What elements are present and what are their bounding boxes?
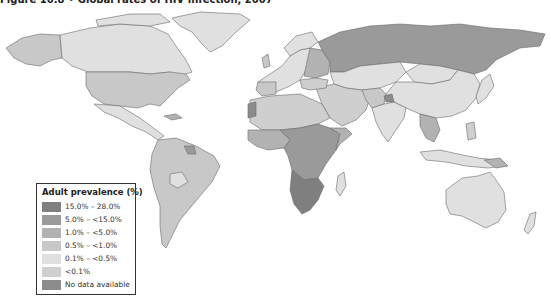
region-southeast-asia bbox=[420, 114, 440, 142]
region-alaska bbox=[6, 34, 62, 66]
legend-label: 0.5% – <1.0% bbox=[65, 241, 117, 250]
legend-swatch bbox=[42, 241, 61, 251]
legend-item-15-28: 15.0% – 28.0% bbox=[42, 200, 131, 213]
region-turkey bbox=[300, 78, 328, 90]
region-greenland bbox=[172, 12, 250, 52]
legend-item-5-15: 5.0% – <15.0% bbox=[42, 213, 131, 226]
region-india bbox=[372, 102, 406, 142]
region-east-central-africa bbox=[280, 124, 340, 180]
legend-item-0.1-0.5: 0.1% – <0.5% bbox=[42, 252, 131, 265]
legend-swatch bbox=[42, 228, 61, 238]
legend-item-under-0.1: <0.1% bbox=[42, 265, 131, 278]
region-mexico bbox=[94, 104, 164, 140]
legend-label: 0.1% – <0.5% bbox=[65, 254, 117, 263]
legend-label: 5.0% – <15.0% bbox=[65, 215, 122, 224]
region-south-america bbox=[150, 138, 220, 248]
region-iberia bbox=[256, 82, 276, 96]
legend-item-no-data: No data available bbox=[42, 278, 131, 291]
region-philippines bbox=[466, 122, 476, 140]
region-new-zealand bbox=[524, 212, 536, 234]
legend-label: 15.0% – 28.0% bbox=[65, 202, 120, 211]
legend-label: 1.0% – <5.0% bbox=[65, 228, 117, 237]
region-madagascar bbox=[336, 172, 346, 196]
legend-swatch bbox=[42, 254, 61, 264]
region-japan bbox=[476, 74, 494, 104]
region-western-sahara bbox=[248, 102, 256, 118]
legend-swatch bbox=[42, 215, 61, 225]
legend-item-0.5-1: 0.5% – <1.0% bbox=[42, 239, 131, 252]
region-canada bbox=[60, 24, 192, 76]
legend-label: <0.1% bbox=[65, 267, 90, 276]
legend-item-1-5: 1.0% – <5.0% bbox=[42, 226, 131, 239]
legend-swatch bbox=[42, 267, 61, 277]
region-uk bbox=[262, 54, 270, 68]
legend-swatch bbox=[42, 280, 61, 290]
region-caribbean bbox=[164, 114, 182, 120]
region-australia bbox=[446, 172, 506, 228]
map-legend: Adult prevalence (%) 15.0% – 28.0% 5.0% … bbox=[36, 183, 136, 295]
legend-swatch bbox=[42, 202, 61, 212]
legend-title: Adult prevalence (%) bbox=[42, 187, 131, 197]
region-arctic-islands bbox=[96, 14, 170, 26]
region-usa bbox=[86, 72, 190, 108]
legend-label: No data available bbox=[65, 280, 130, 289]
